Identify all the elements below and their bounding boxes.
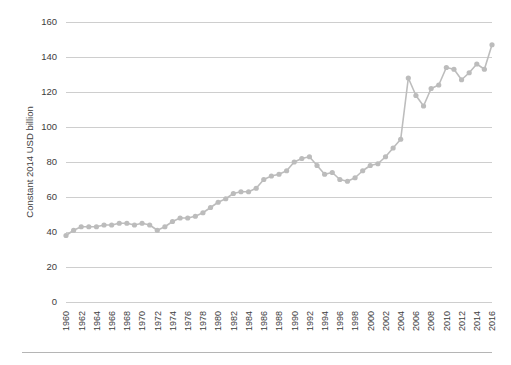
data-point-marker bbox=[276, 172, 281, 177]
data-point-marker bbox=[162, 224, 167, 229]
x-tick-label: 1970 bbox=[137, 311, 147, 331]
data-point-marker bbox=[421, 103, 426, 108]
series-line bbox=[66, 45, 492, 236]
x-tick-label: 2002 bbox=[381, 311, 391, 331]
data-point-marker bbox=[474, 61, 479, 66]
data-point-marker bbox=[178, 215, 183, 220]
x-tick-label: 2012 bbox=[457, 311, 467, 331]
data-point-marker bbox=[459, 77, 464, 82]
y-axis-title: Constant 2014 USD billion bbox=[24, 106, 35, 217]
line-chart-figure: 020406080100120140160 196019621964196619… bbox=[0, 0, 511, 365]
data-point-marker bbox=[109, 222, 114, 227]
x-tick-label: 2000 bbox=[366, 311, 376, 331]
data-point-marker bbox=[444, 65, 449, 70]
x-tick-label: 2010 bbox=[442, 311, 452, 331]
y-tick-label: 40 bbox=[46, 226, 57, 237]
data-point-marker bbox=[155, 228, 160, 233]
y-tick-label: 100 bbox=[41, 121, 57, 132]
data-point-marker bbox=[193, 214, 198, 219]
data-point-marker bbox=[200, 210, 205, 215]
data-point-marker bbox=[307, 154, 312, 159]
data-point-marker bbox=[124, 221, 129, 226]
data-point-marker bbox=[139, 221, 144, 226]
x-tick-label: 2014 bbox=[472, 311, 482, 331]
data-point-marker bbox=[352, 175, 357, 180]
x-tick-label: 1998 bbox=[350, 311, 360, 331]
data-point-marker bbox=[238, 189, 243, 194]
y-tick-label: 0 bbox=[52, 296, 57, 307]
data-point-marker bbox=[467, 70, 472, 75]
data-point-marker bbox=[489, 42, 494, 47]
data-point-marker bbox=[375, 161, 380, 166]
x-tick-label: 2016 bbox=[487, 311, 497, 331]
y-axis-tick-labels: 020406080100120140160 bbox=[41, 16, 57, 307]
gridlines bbox=[66, 22, 492, 302]
data-point-marker bbox=[147, 222, 152, 227]
x-tick-label: 1968 bbox=[122, 311, 132, 331]
data-point-marker bbox=[398, 137, 403, 142]
data-point-marker bbox=[322, 172, 327, 177]
data-point-marker bbox=[86, 224, 91, 229]
data-point-marker bbox=[284, 168, 289, 173]
data-point-marker bbox=[345, 179, 350, 184]
x-tick-label: 1976 bbox=[183, 311, 193, 331]
y-tick-label: 80 bbox=[46, 156, 57, 167]
x-tick-label: 2008 bbox=[426, 311, 436, 331]
data-point-marker bbox=[117, 221, 122, 226]
data-point-marker bbox=[223, 196, 228, 201]
data-point-marker bbox=[383, 154, 388, 159]
data-point-marker bbox=[299, 156, 304, 161]
x-tick-label: 1964 bbox=[92, 311, 102, 331]
data-point-marker bbox=[231, 191, 236, 196]
x-axis-tick-labels: 1960196219641966196819701972197419761978… bbox=[61, 311, 497, 331]
x-tick-label: 1980 bbox=[213, 311, 223, 331]
data-point-marker bbox=[429, 86, 434, 91]
y-tick-label: 20 bbox=[46, 261, 57, 272]
data-point-marker bbox=[261, 177, 266, 182]
data-point-marker bbox=[71, 228, 76, 233]
x-tick-label: 1974 bbox=[168, 311, 178, 331]
x-tick-label: 1996 bbox=[335, 311, 345, 331]
data-point-marker bbox=[101, 222, 106, 227]
x-tick-label: 1992 bbox=[305, 311, 315, 331]
data-point-marker bbox=[292, 159, 297, 164]
x-tick-label: 2004 bbox=[396, 311, 406, 331]
x-tick-label: 1966 bbox=[107, 311, 117, 331]
data-point-marker bbox=[185, 215, 190, 220]
data-point-marker bbox=[314, 163, 319, 168]
y-tick-label: 160 bbox=[41, 16, 57, 27]
data-point-marker bbox=[246, 189, 251, 194]
x-tick-label: 1986 bbox=[259, 311, 269, 331]
data-point-marker bbox=[451, 67, 456, 72]
data-point-marker bbox=[330, 170, 335, 175]
data-point-marker bbox=[337, 177, 342, 182]
data-point-marker bbox=[63, 233, 68, 238]
data-point-marker bbox=[413, 93, 418, 98]
x-tick-label: 2006 bbox=[411, 311, 421, 331]
data-point-marker bbox=[360, 168, 365, 173]
x-tick-label: 1962 bbox=[77, 311, 87, 331]
data-point-marker bbox=[254, 186, 259, 191]
data-point-marker bbox=[406, 75, 411, 80]
chart-plot-area: 020406080100120140160 196019621964196619… bbox=[0, 0, 511, 365]
x-tick-label: 1972 bbox=[153, 311, 163, 331]
x-tick-label: 1978 bbox=[198, 311, 208, 331]
y-axis-label-text: Constant 2014 USD billion bbox=[24, 106, 35, 217]
y-tick-label: 60 bbox=[46, 191, 57, 202]
data-point-marker bbox=[269, 173, 274, 178]
y-tick-label: 140 bbox=[41, 51, 57, 62]
x-tick-label: 1960 bbox=[61, 311, 71, 331]
data-point-marker bbox=[208, 205, 213, 210]
data-point-marker bbox=[94, 224, 99, 229]
data-point-marker bbox=[170, 219, 175, 224]
data-point-marker bbox=[79, 224, 84, 229]
data-series bbox=[63, 42, 494, 238]
x-tick-label: 1994 bbox=[320, 311, 330, 331]
x-tick-label: 1988 bbox=[274, 311, 284, 331]
data-point-marker bbox=[436, 82, 441, 87]
x-tick-label: 1984 bbox=[244, 311, 254, 331]
x-tick-label: 1982 bbox=[229, 311, 239, 331]
data-point-marker bbox=[391, 145, 396, 150]
y-tick-label: 120 bbox=[41, 86, 57, 97]
data-point-marker bbox=[132, 222, 137, 227]
